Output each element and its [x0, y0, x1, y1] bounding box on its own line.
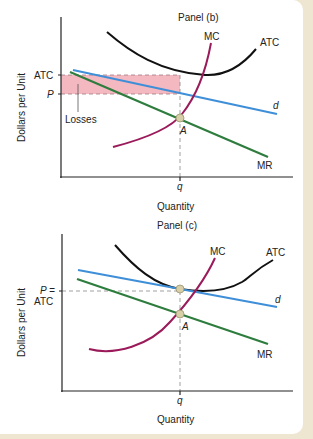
- atc-label: ATC: [260, 37, 279, 48]
- d-label: d: [275, 294, 281, 305]
- y-axis-label: Dollars per Unit: [16, 288, 27, 357]
- x-tick-q: q: [177, 395, 183, 406]
- y-tick-p: P =: [40, 285, 55, 296]
- tangency-point: [176, 285, 184, 293]
- y-tick-atc: ATC: [34, 70, 53, 81]
- losses-area: [61, 75, 180, 94]
- atc-label: ATC: [266, 247, 285, 258]
- panel-c: Panel (c) P = ATC MC ATC d MR A q Quanti…: [16, 220, 293, 425]
- atc-curve: [115, 245, 273, 291]
- point-a-label: A: [181, 321, 189, 332]
- d-label: d: [273, 100, 279, 111]
- panel-b: Panel (b) ATC P Losses MC ATC d MR A: [16, 12, 293, 212]
- x-tick-q: q: [177, 181, 183, 192]
- y-tick-p: P: [47, 89, 54, 100]
- point-a: [176, 310, 184, 318]
- atc-curve: [107, 32, 256, 75]
- mr-line: [77, 279, 268, 344]
- chart-canvas: Panel (b) ATC P Losses MC ATC d MR A: [0, 0, 313, 439]
- y-axis-label: Dollars per Unit: [16, 73, 27, 142]
- mc-label: MC: [204, 31, 220, 42]
- panel-b-title: Panel (b): [178, 12, 219, 23]
- point-a-label: A: [179, 125, 187, 136]
- x-axis-label: Quantity: [157, 201, 194, 212]
- y-tick-atc: ATC: [34, 296, 53, 307]
- x-axis-label: Quantity: [157, 414, 194, 425]
- point-a: [176, 114, 184, 122]
- mr-label: MR: [257, 349, 273, 360]
- mr-label: MR: [257, 160, 273, 171]
- mc-curve: [113, 43, 211, 147]
- panel-c-title: Panel (c): [157, 220, 197, 231]
- mc-label: MC: [210, 246, 226, 257]
- losses-label: Losses: [65, 114, 97, 125]
